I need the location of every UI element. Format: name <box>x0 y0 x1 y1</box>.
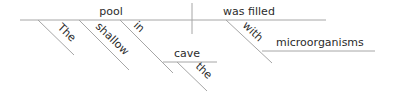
sentence-diagram: pool was filled The shallow in cave the … <box>0 0 393 95</box>
verb-prep-object-word: microorganisms <box>276 36 364 49</box>
subject-word: pool <box>99 5 123 18</box>
verb-preposition-word: with <box>240 19 266 45</box>
verb-word: was filled <box>223 5 275 18</box>
prep-article-word: the <box>193 60 215 82</box>
prep-object-word: cave <box>174 47 200 60</box>
article-word: The <box>54 20 79 44</box>
